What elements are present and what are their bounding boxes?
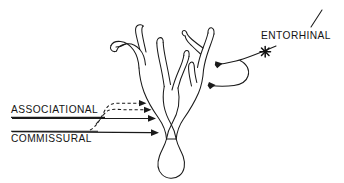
- dendrite-right-sub-tip-cap: [182, 31, 186, 36]
- diagram-canvas: [0, 0, 344, 183]
- dendrite-right-stub-right: [193, 62, 197, 82]
- dendrite-middle-right: [163, 43, 170, 85]
- neuron-diagram-figure: ASSOCIATIONAL COMMISSURAL ENTORHINAL: [0, 0, 344, 183]
- dendrite-right-stub-tip-cap: [191, 62, 193, 63]
- entorhinal-stem: [216, 46, 276, 65]
- associational-dashed-path-2: [96, 109, 144, 124]
- entorhinal-arrowhead-upper: [215, 61, 223, 68]
- dendrite-right-branch-outer: [204, 34, 215, 70]
- associational-arrowhead-3: [148, 115, 156, 122]
- neuron-cell: [111, 25, 215, 178]
- dendrite-middle-fork-left: [178, 57, 189, 89]
- entorhinal-tail-line: [311, 10, 322, 27]
- dendrite-left-upper-right: [142, 26, 146, 52]
- associational-arrowhead-2: [144, 107, 152, 113]
- dendrite-middle-left: [157, 43, 164, 87]
- label-associational: ASSOCIATIONAL: [11, 104, 98, 115]
- dendrite-right-stub-left: [189, 63, 192, 86]
- label-commissural: COMMISSURAL: [11, 133, 92, 144]
- dendrite-right-branch-inner: [198, 33, 209, 68]
- dendrite-left-upper-tip-cap: [138, 25, 144, 26]
- dendrite-right-sub-upper: [187, 32, 204, 48]
- entorhinal-afferent-pathway: [208, 10, 322, 89]
- dendrite-right-tip-cap: [208, 28, 214, 34]
- dendrite-middle-tip-cap: [157, 38, 163, 43]
- soma-outline: [158, 139, 184, 178]
- entorhinal-arrowhead-lower: [208, 82, 216, 89]
- dendrite-middle-fork-tip-cap: [184, 51, 189, 57]
- commissural-arrowhead: [151, 129, 159, 136]
- associational-arrowhead-1: [139, 100, 147, 106]
- dendrite-middle-fork-right: [172, 56, 184, 91]
- entorhinal-x-marker: [260, 46, 271, 57]
- dendrite-left-tip-cap: [111, 46, 117, 52]
- label-entorhinal: ENTORHINAL: [261, 30, 331, 41]
